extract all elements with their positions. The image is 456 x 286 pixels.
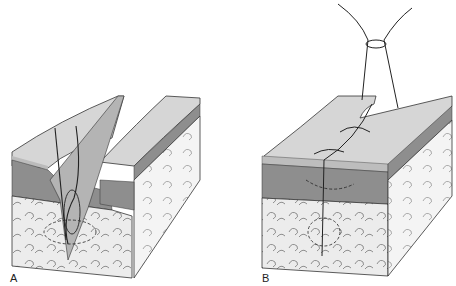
panel-b-label: B <box>262 272 269 284</box>
panel-b-block <box>262 4 452 276</box>
suture-illustration: A B <box>0 0 456 286</box>
panel-a-block <box>12 96 200 278</box>
panel-a-label: A <box>10 272 18 284</box>
